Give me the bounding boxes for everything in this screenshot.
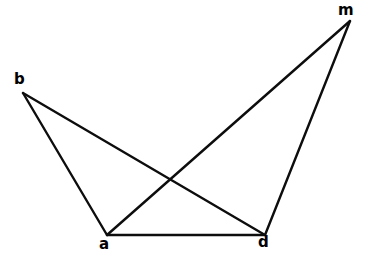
vertex-label-d: d (258, 235, 269, 250)
edge-b-d (23, 93, 265, 235)
geometry-figure: bmad (0, 0, 372, 261)
edge-m-d (265, 21, 350, 235)
vertex-label-b: b (14, 72, 25, 87)
vertex-label-m: m (338, 3, 354, 18)
vertex-label-a: a (99, 237, 109, 252)
edges-group (23, 21, 350, 235)
edge-a-m (107, 21, 350, 235)
edge-b-a (23, 93, 107, 235)
figure-canvas (0, 0, 372, 261)
